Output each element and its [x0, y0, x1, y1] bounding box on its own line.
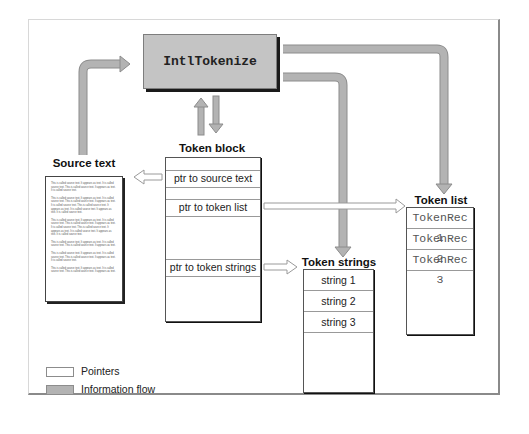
token-block-row-source: ptr to source text — [166, 170, 260, 188]
ptr-token-list-label: ptr to token list — [179, 201, 247, 213]
pointer-arrow-to-token-strings — [264, 260, 297, 274]
flow-arrow-source-to-tokenize — [83, 56, 130, 155]
token-list-box: TokenRec 1 TokenRec 2 TokenRec 3 — [406, 207, 474, 335]
token-rec-item: TokenRec 2 — [407, 229, 473, 250]
token-string-item: string 3 — [304, 312, 373, 333]
source-text-paragraph: This is called source text. It appears a… — [51, 241, 117, 248]
flow-arrow-token-block-up — [194, 98, 208, 135]
source-text-paragraph: This is called source text. It appears a… — [51, 252, 117, 263]
source-text-paragraph: This is called source text. It appears a… — [51, 182, 117, 193]
token-block-row-token-strings: ptr to token strings — [166, 259, 260, 277]
intl-tokenize-box: IntlTokenize — [143, 34, 277, 89]
token-block-row-token-list: ptr to token list — [166, 199, 260, 217]
source-text-title: Source text — [38, 157, 130, 169]
token-string-item: string 2 — [304, 291, 373, 312]
pointer-arrow-to-token-list — [264, 199, 405, 213]
source-text-paragraph: This is called source text. It appears a… — [51, 267, 117, 274]
token-block-box: ptr to source text ptr to token list ptr… — [165, 157, 261, 322]
token-strings-title: Token strings — [298, 256, 380, 268]
intl-tokenize-label: IntlTokenize — [163, 54, 257, 69]
ptr-token-strings-label: ptr to token strings — [170, 261, 256, 273]
token-block-title: Token block — [160, 142, 264, 154]
pointer-arrow-to-source-text — [134, 170, 162, 184]
token-rec-item: TokenRec 3 — [407, 250, 473, 271]
flow-arrow-tokenize-to-token-strings — [283, 77, 351, 257]
legend-pointers-label: Pointers — [81, 365, 120, 377]
token-rec-item: TokenRec 1 — [407, 208, 473, 229]
source-text-paragraph: This is called source text. It appears a… — [51, 219, 117, 237]
source-text-paragraph: This is called source text. It appears a… — [51, 197, 117, 215]
flow-arrow-token-block-down — [209, 96, 223, 133]
legend-flow-label: Information flow — [81, 383, 155, 395]
token-string-item: string 1 — [304, 270, 373, 291]
legend-flow-swatch — [46, 385, 74, 395]
token-strings-box: string 1 string 2 string 3 — [303, 269, 374, 393]
source-text-box: This is called source text. It appears a… — [45, 176, 123, 302]
legend-pointers-swatch — [46, 367, 74, 377]
ptr-source-text-label: ptr to source text — [174, 172, 252, 184]
flow-arrow-tokenize-to-token-list — [283, 49, 452, 194]
token-list-title: Token list — [402, 194, 480, 206]
